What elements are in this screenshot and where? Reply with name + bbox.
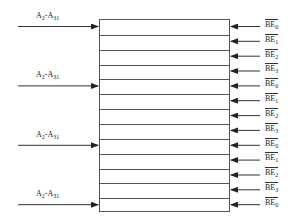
byte-enable-label: BE3 [265,64,278,74]
byte-enable-label: BE0 [265,139,278,149]
byte-enable-label: BE2 [265,168,278,178]
byte-enable-label: BE1 [265,94,278,104]
byte-enable-label: BE2 [265,50,278,60]
byte-enable-label: BE1 [265,35,278,45]
byte-enable-arrows [231,27,260,205]
address-arrows [18,27,98,205]
byte-enable-label: BE3 [265,124,278,134]
address-label: A2-A31 [36,130,59,140]
byte-enable-label: BE0 [265,198,278,208]
byte-enable-label: BE0 [265,79,278,89]
byte-enable-label: BE0 [265,20,278,30]
byte-enable-label: BE1 [265,153,278,163]
byte-enable-label: BE2 [265,109,278,119]
byte-enable-label: BE3 [265,183,278,193]
address-label: A2-A31 [36,189,59,199]
address-label: A2-A31 [36,11,59,21]
address-label: A2-A31 [36,70,59,80]
